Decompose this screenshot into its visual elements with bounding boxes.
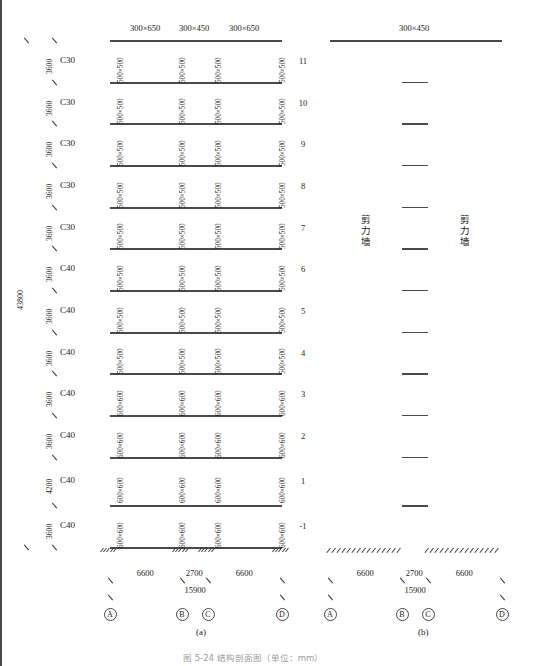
coupling-beam-line	[402, 332, 428, 333]
dimension-tick	[52, 162, 57, 168]
column-size-label: 500×500	[118, 349, 125, 375]
span-dimension-label: 6600	[236, 569, 253, 578]
storey-height-label: 3600	[46, 309, 54, 324]
dimension-tick	[108, 594, 113, 600]
storey-height-label: 3600	[46, 59, 54, 74]
column-size-label: 500×500	[118, 57, 125, 83]
dimension-tick	[52, 329, 57, 335]
structural-section-drawing: 300×650300×450300×650500×500500×500500×5…	[0, 0, 539, 666]
axis-bubble-b-c: C	[422, 608, 435, 621]
floor-number: 11	[296, 57, 310, 66]
column-line	[0, 507, 2, 666]
shear-wall-label-left: 剪力墙	[361, 214, 372, 248]
axis-bubble-d: D	[276, 608, 289, 621]
dimension-tick	[52, 37, 57, 43]
coupling-beam-line	[402, 290, 428, 291]
floor-beam-line	[110, 505, 282, 507]
dimension-tick	[52, 544, 57, 550]
roof-beam-line	[110, 40, 282, 42]
column-size-label: 600×600	[280, 477, 287, 503]
column-size-label: 600×600	[118, 432, 125, 458]
column-size-label: 600×600	[118, 522, 125, 548]
column-size-label: 500×500	[118, 224, 125, 250]
storey-height-label: 3600	[46, 226, 54, 241]
dimension-tick	[280, 577, 285, 583]
coupling-beam-line	[402, 207, 428, 208]
column-size-label: 500×500	[118, 140, 125, 166]
column-size-label: 500×500	[118, 307, 125, 333]
column-size-label: 600×600	[118, 390, 125, 416]
concrete-grade-label: C40	[60, 348, 75, 357]
storey-height-label: 3600	[46, 351, 54, 366]
axis-bubble-b-b: B	[396, 608, 409, 621]
coupling-beam-size-label: 300×450	[399, 24, 429, 33]
column-size-label: 500×500	[216, 349, 223, 375]
beam-size-label: 300×450	[179, 24, 209, 33]
column-size-label: 600×600	[280, 432, 287, 458]
floor-beam-line	[110, 457, 282, 459]
column-size-label: 500×500	[280, 140, 287, 166]
column-size-label: 600×600	[216, 432, 223, 458]
figure-caption: 图 5-24 结构剖面图（单位：mm）	[183, 651, 323, 663]
column-size-label: 500×500	[216, 140, 223, 166]
coupling-beam-line	[402, 123, 428, 124]
column-size-label: 500×500	[180, 265, 187, 291]
floor-beam-line	[110, 373, 282, 375]
axis-bubble-c: C	[202, 608, 215, 621]
column-size-label: 500×500	[180, 307, 187, 333]
coupling-beam-line	[402, 415, 428, 416]
column-size-label: 500×500	[118, 265, 125, 291]
storey-height-label: 3600	[46, 434, 54, 449]
concrete-grade-label: C30	[60, 56, 75, 65]
dimension-tick	[52, 503, 57, 509]
concrete-grade-label: C40	[60, 431, 75, 440]
shear-wall-label-right: 剪力墙	[460, 214, 471, 248]
concrete-grade-label: C30	[60, 223, 75, 232]
column-size-label: 500×500	[280, 265, 287, 291]
span-dimension-label: 2700	[186, 569, 203, 578]
column-line	[0, 0, 2, 507]
floor-number: 10	[296, 99, 310, 108]
column-size-label: 600×600	[180, 390, 187, 416]
column-size-label: 500×500	[280, 57, 287, 83]
coupling-beam-line	[402, 457, 428, 458]
ground-line	[110, 547, 282, 549]
floor-beam-line	[110, 165, 282, 167]
floor-number: 4	[296, 349, 310, 358]
frame-a-elevation: 300×650300×450300×650500×500500×500500×5…	[0, 0, 539, 666]
column-size-label: 600×600	[118, 477, 125, 503]
concrete-grade-label: C40	[60, 264, 75, 273]
dimension-tick	[24, 544, 29, 550]
subcaption-a: (a)	[196, 627, 206, 637]
concrete-grade-label: C30	[60, 98, 75, 107]
column-size-label: 500×500	[216, 307, 223, 333]
axis-bubble-b-d: D	[496, 608, 509, 621]
span-dimension-label: 6600	[137, 569, 154, 578]
dimension-tick	[206, 577, 211, 583]
column-size-label: 500×500	[280, 349, 287, 375]
dimension-tick	[280, 594, 285, 600]
column-size-label: 500×500	[280, 182, 287, 208]
column-size-label: 500×500	[216, 182, 223, 208]
dimension-tick	[52, 79, 57, 85]
floor-beam-line	[110, 290, 282, 292]
storey-height-label: 3600	[46, 101, 54, 116]
column-size-label: 600×600	[180, 477, 187, 503]
floor-beam-line	[110, 332, 282, 334]
column-size-label: 600×600	[216, 390, 223, 416]
dimension-tick	[52, 371, 57, 377]
column-size-label: 500×500	[280, 307, 287, 333]
floor-beam-line	[110, 123, 282, 125]
floor-number: 6	[296, 265, 310, 274]
storey-height-label: 3600	[46, 392, 54, 407]
column-size-label: 500×500	[216, 265, 223, 291]
column-size-label: 500×500	[216, 57, 223, 83]
axis-bubble-b: B	[176, 608, 189, 621]
axis-bubble-a: A	[104, 608, 117, 621]
floor-beam-line	[110, 82, 282, 84]
storey-height-label: 3600	[46, 184, 54, 199]
floor-number: 9	[296, 140, 310, 149]
total-span-label: 15900	[405, 586, 426, 595]
span-dimension-label: 6600	[456, 569, 473, 578]
dimension-tick	[108, 577, 113, 583]
